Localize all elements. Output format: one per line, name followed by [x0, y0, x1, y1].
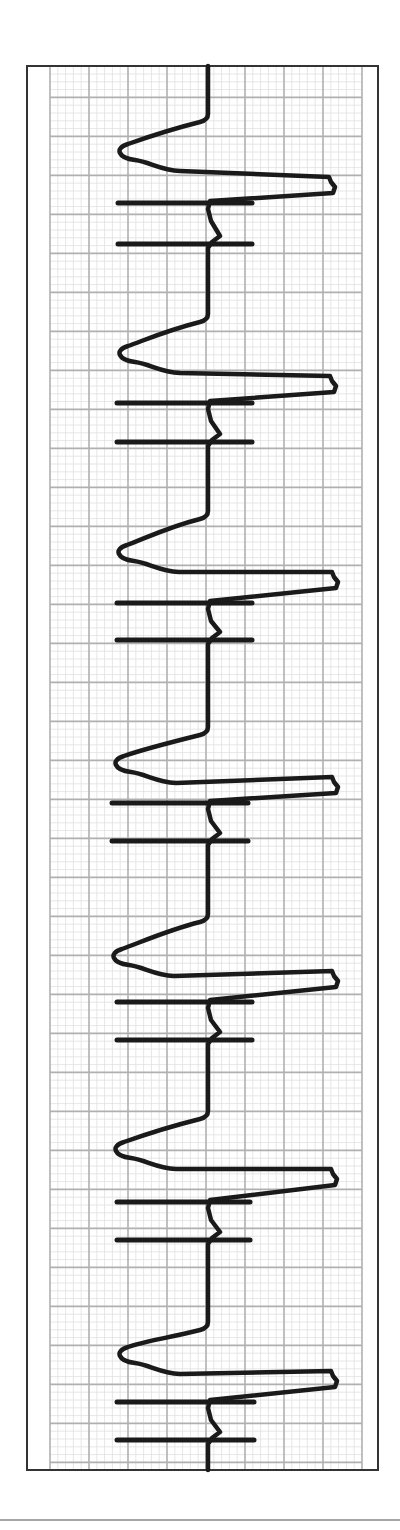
ecg-strip: [0, 0, 400, 1530]
